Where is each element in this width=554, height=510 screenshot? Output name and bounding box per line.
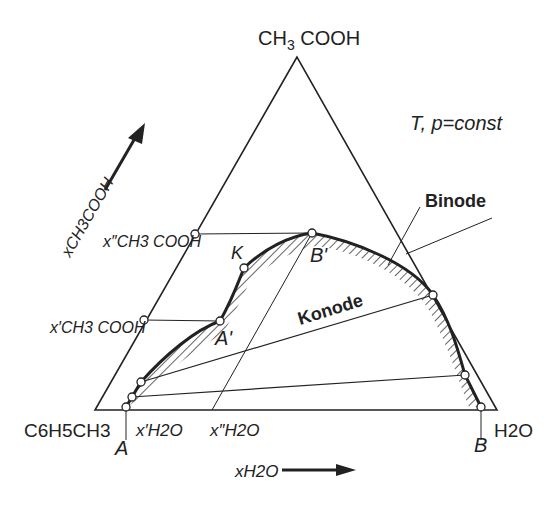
tie-line-1 (141, 295, 433, 382)
tie-line-2 (132, 375, 465, 397)
x2-water-label: x″H2O (209, 421, 259, 440)
water-axis-arrow (282, 464, 356, 476)
label-B-prime: B' (310, 244, 328, 266)
point-A (122, 403, 130, 411)
x1-acid-label: x′CH3 COOH (49, 319, 146, 336)
x2-acid-line (195, 233, 312, 234)
ternary-diagram: CH3 COOH T, p=const Binode Konode K B' A… (0, 0, 554, 510)
point-right-1 (429, 291, 437, 299)
point-B-prime (308, 229, 316, 237)
binode-label: Binode (425, 191, 486, 211)
vertex-right-label: H2O (494, 420, 533, 441)
point-left-1 (137, 378, 145, 386)
point-A-prime (216, 317, 224, 325)
binode-leader-2 (406, 218, 492, 254)
x1-acid-line (144, 320, 220, 321)
x2-acid-label: x″CH3 COOH (102, 233, 202, 250)
point-B (477, 403, 485, 411)
water-axis-label: xH2O (234, 462, 278, 481)
x1-water-label: x′H2O (135, 421, 183, 440)
konode-label: Konode (295, 290, 365, 329)
label-B: B (474, 434, 487, 456)
point-K (240, 264, 248, 272)
label-K: K (231, 243, 244, 263)
point-left-2 (128, 393, 136, 401)
label-A-prime: A' (214, 327, 233, 349)
point-right-2 (461, 371, 469, 379)
binode-leader (388, 207, 420, 265)
label-A: A (114, 437, 128, 459)
vertex-top-label: CH3 COOH (258, 27, 360, 53)
acid-axis-arrow (105, 123, 145, 190)
vertex-left-label: C6H5CH3 (24, 420, 111, 441)
condition-label: T, p=const (410, 112, 504, 134)
